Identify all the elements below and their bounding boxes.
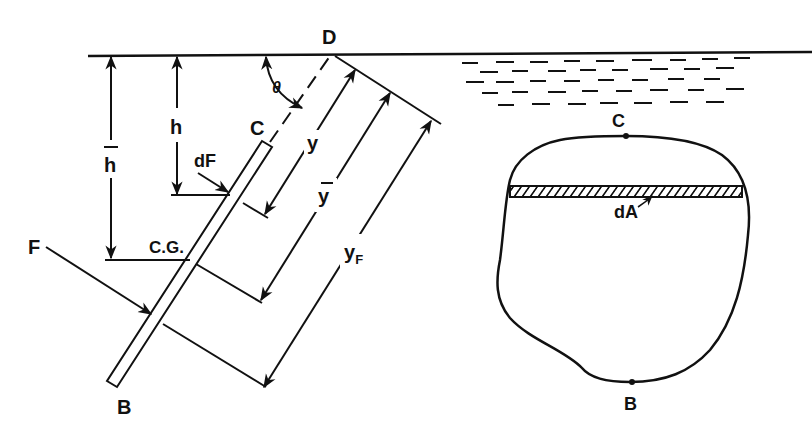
point-C-area [623, 133, 629, 139]
y-end-tick [243, 203, 268, 218]
label-dA: dA [614, 202, 638, 222]
hydrostatic-force-diagram: θ D C h h dF C.G. F y y yF B dA C [0, 0, 812, 441]
label-h: h [170, 116, 182, 138]
D-perpendicular-line [335, 56, 441, 124]
label-C-plate: C [250, 117, 264, 139]
label-B-area: B [624, 394, 637, 414]
point-B-area [629, 379, 635, 385]
label-theta: θ [272, 79, 281, 96]
area-strip-dA [510, 186, 742, 197]
inclined-plate [107, 141, 272, 387]
dF-arrow [198, 173, 228, 192]
label-dF: dF [194, 151, 216, 171]
water-dashes [462, 58, 750, 105]
F-arrow [46, 247, 151, 314]
label-B-plate: B [117, 396, 131, 418]
label-h-bar: h [104, 154, 116, 176]
label-CG: C.G. [149, 238, 184, 257]
label-C-area: C [612, 111, 625, 131]
y-bar-end-tick [196, 264, 262, 303]
label-D: D [322, 26, 336, 48]
submerged-area-outline [497, 136, 749, 382]
label-F: F [28, 236, 40, 258]
plate-extension-dashed [270, 56, 330, 142]
label-y-bar: y [318, 185, 330, 207]
label-y: y [307, 132, 319, 154]
free-surface-line [88, 52, 812, 56]
y-F-end-tick [163, 324, 266, 387]
